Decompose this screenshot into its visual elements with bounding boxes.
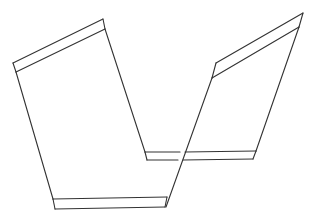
folded-panels-diagram <box>0 0 316 219</box>
left-panel-bottom-band <box>55 207 165 209</box>
right-panel-right-edge <box>256 27 299 151</box>
left-panel-bottom-edge <box>53 197 167 199</box>
left-panel-bottom-left-cap <box>53 199 55 209</box>
right-panel-bottom-right-cap <box>253 151 256 159</box>
left-panel-left-edge <box>16 72 53 199</box>
left-panel-top-right-cap <box>103 19 105 29</box>
left-panel-top-band <box>16 29 105 72</box>
left-panel-top-left-cap <box>13 63 16 72</box>
diagram-canvas <box>0 0 316 219</box>
left-panel-right-edge <box>105 29 145 152</box>
right-panel <box>145 13 303 207</box>
right-panel-bottom-band-right <box>183 159 253 160</box>
right-panel-top-band <box>212 27 299 78</box>
left-panel <box>13 19 167 209</box>
right-panel-bottom-edge-right <box>185 151 256 152</box>
right-panel-bottom-left-cap <box>145 152 147 160</box>
right-panel-long-diagonal <box>166 78 212 207</box>
right-panel-top-edge <box>216 13 303 63</box>
left-panel-top-edge <box>13 19 103 63</box>
